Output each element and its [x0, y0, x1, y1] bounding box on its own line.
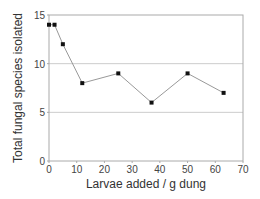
data-point-marker: [53, 23, 57, 27]
y-tick-label: 10: [34, 59, 46, 70]
data-point-marker: [80, 81, 84, 85]
x-tick-label: 40: [154, 164, 166, 175]
x-tick-label: 30: [127, 164, 139, 175]
y-tick-label: 0: [39, 156, 45, 167]
x-tick-label: 60: [210, 164, 222, 175]
x-tick-label: 0: [46, 164, 52, 175]
x-tick-label: 20: [99, 164, 111, 175]
x-tick-label: 10: [71, 164, 83, 175]
line-chart: 051015 010203040506070 Larvae added / g …: [0, 0, 260, 199]
x-axis-ticks: 010203040506070: [46, 161, 249, 175]
x-tick-label: 50: [182, 164, 194, 175]
y-tick-label: 5: [39, 107, 45, 118]
data-point-marker: [150, 101, 154, 105]
data-point-marker: [61, 42, 65, 46]
data-point-marker: [222, 91, 226, 95]
data-point-marker: [116, 71, 120, 75]
y-axis-label: Total fungal species isolated: [11, 13, 25, 163]
x-tick-label: 70: [237, 164, 249, 175]
y-axis-ticks: 051015: [34, 10, 49, 167]
data-point-marker: [47, 23, 51, 27]
y-tick-label: 15: [34, 10, 46, 21]
x-axis-label: Larvae added / g dung: [86, 177, 206, 191]
data-point-marker: [186, 71, 190, 75]
